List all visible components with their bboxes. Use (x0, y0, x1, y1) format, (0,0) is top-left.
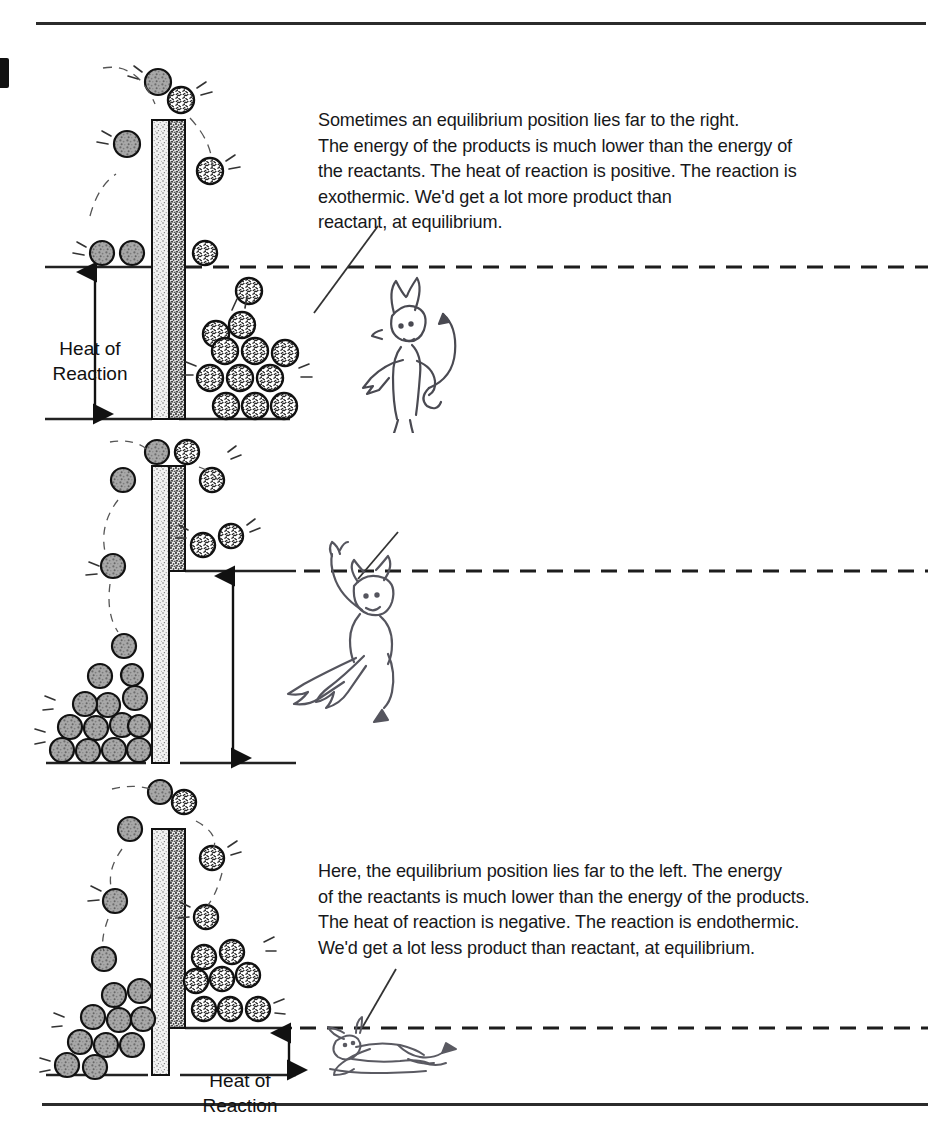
pointer-line (314, 226, 378, 313)
bottom-rule (42, 1103, 928, 1106)
panel-half-and-half: Sometimes, the equilibrium position is a… (0, 777, 949, 1097)
devil-icon (328, 1017, 456, 1075)
product-molecules (172, 790, 285, 1021)
figure-page: Sometimes an equilibrium position lies f… (0, 0, 949, 1131)
barrier (152, 120, 185, 419)
panel-1-text: Sometimes an equilibrium position lies f… (318, 108, 938, 236)
product-molecules (168, 82, 312, 419)
panel-3-graphic (0, 777, 949, 1097)
reactant-molecules (35, 440, 169, 763)
panel-1-heat-label: Heat of Reaction (30, 336, 150, 386)
panel-exothermic: Sometimes an equilibrium position lies f… (0, 48, 949, 433)
devil-icon (363, 278, 455, 433)
barrier (152, 829, 185, 1075)
product-molecules (175, 440, 260, 557)
panel-endothermic: Here, the equilibrium position lies far … (0, 432, 949, 777)
devil-icon (288, 542, 393, 722)
panel-2-graphic (0, 432, 949, 777)
barrier (152, 466, 185, 763)
top-rule (36, 22, 926, 25)
pointer-line (362, 969, 396, 1028)
